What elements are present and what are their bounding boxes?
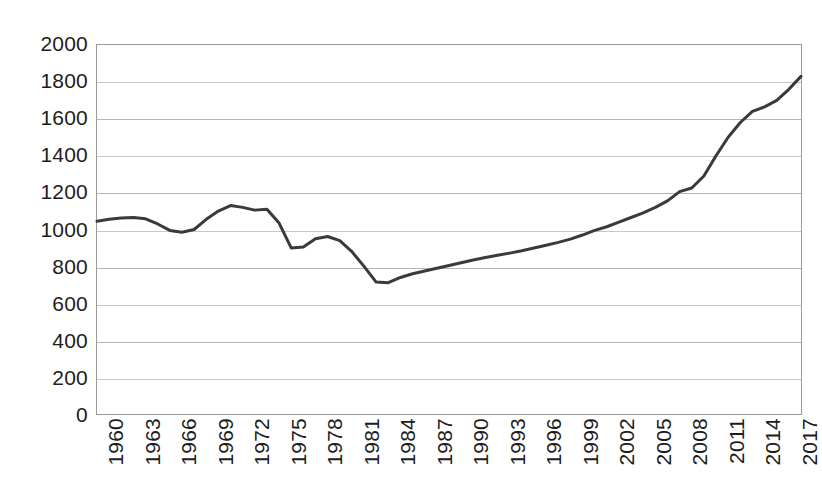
- y-tick-label-1800: 1800: [40, 69, 88, 93]
- line-chart: 2000180016001400120010008006004002000 19…: [0, 0, 822, 498]
- x-tick-label-1984: 1984: [396, 418, 420, 466]
- x-tick-label-1990: 1990: [469, 418, 493, 466]
- x-tick-label-2011: 2011: [725, 418, 749, 464]
- x-tick-label-1963: 1963: [141, 418, 165, 466]
- x-tick-label-2017: 2017: [798, 418, 822, 466]
- series-line-value: [97, 45, 801, 414]
- x-tick-label-1978: 1978: [323, 418, 347, 466]
- y-axis: 2000180016001400120010008006004002000: [0, 44, 88, 415]
- x-tick-label-1999: 1999: [579, 418, 603, 466]
- x-tick-label-1981: 1981: [360, 418, 384, 466]
- x-tick-label-1996: 1996: [542, 418, 566, 466]
- y-tick-label-1000: 1000: [40, 218, 88, 242]
- y-tick-label-1400: 1400: [40, 143, 88, 167]
- plot-area: [96, 44, 802, 415]
- x-tick-label-1972: 1972: [250, 418, 274, 466]
- x-tick-label-1966: 1966: [177, 418, 201, 466]
- x-tick-label-1969: 1969: [214, 418, 238, 466]
- series-polyline: [97, 76, 801, 282]
- x-tick-label-1993: 1993: [506, 418, 530, 466]
- x-tick-label-1960: 1960: [104, 418, 128, 466]
- y-tick-label-1600: 1600: [40, 106, 88, 130]
- x-axis: 1960196319661969197219751978198119841987…: [96, 418, 802, 498]
- x-tick-label-1987: 1987: [433, 418, 457, 466]
- y-tick-label-800: 800: [52, 255, 88, 279]
- y-tick-label-600: 600: [52, 292, 88, 316]
- x-tick-label-2005: 2005: [652, 418, 676, 466]
- y-tick-label-200: 200: [52, 366, 88, 390]
- x-tick-label-2014: 2014: [761, 418, 785, 466]
- x-tick-label-2008: 2008: [688, 418, 712, 466]
- y-tick-label-2000: 2000: [40, 32, 88, 56]
- x-tick-label-2002: 2002: [615, 418, 639, 466]
- x-tick-label-1975: 1975: [287, 418, 311, 466]
- y-tick-label-1200: 1200: [40, 180, 88, 204]
- y-tick-label-400: 400: [52, 329, 88, 353]
- y-tick-label-0: 0: [76, 403, 88, 427]
